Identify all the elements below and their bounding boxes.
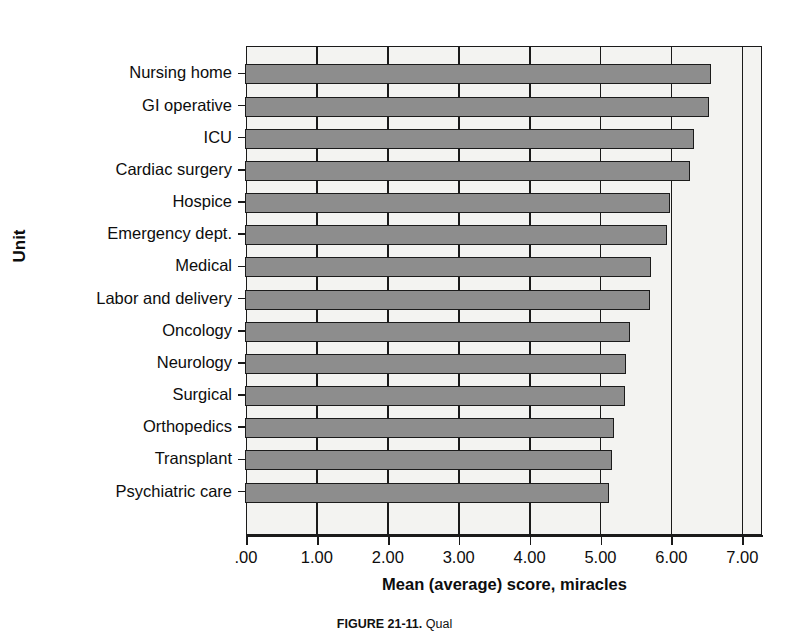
bar [245, 322, 629, 342]
bar [245, 450, 612, 470]
x-axis-tick [459, 536, 461, 545]
bar [245, 386, 624, 406]
category-label: Cardiac surgery [12, 161, 232, 178]
category-label: Labor and delivery [12, 290, 232, 307]
x-axis-tick-label: 6.00 [636, 548, 706, 567]
x-axis-tick [671, 536, 673, 545]
x-axis-line [246, 535, 763, 537]
category-label: Surgical [12, 386, 232, 403]
bar [245, 225, 666, 245]
category-label: Transplant [12, 450, 232, 467]
caption-label: FIGURE 21-11. [337, 617, 422, 631]
category-label: Orthopedics [12, 418, 232, 435]
x-axis-tick-label: .00 [211, 548, 281, 567]
category-label: Medical [12, 257, 232, 274]
bar [245, 129, 693, 149]
bar [245, 257, 651, 277]
category-label-column: Nursing homeGI operativeICUCardiac surge… [10, 46, 236, 535]
x-axis-tick-label: 4.00 [495, 548, 565, 567]
category-label: Oncology [12, 322, 232, 339]
x-axis-tick [601, 536, 603, 545]
x-axis-title: Mean (average) score, miracles [246, 575, 763, 594]
x-axis-tick-label: 2.00 [353, 548, 423, 567]
category-label: ICU [12, 129, 232, 146]
bar [245, 483, 608, 503]
category-label: Psychiatric care [12, 483, 232, 500]
category-label: Nursing home [12, 64, 232, 81]
figure-caption: FIGURE 21-11. Qual [0, 617, 789, 631]
x-axis-tick [246, 536, 248, 545]
bar [245, 418, 614, 438]
bar [245, 290, 649, 310]
bar [245, 64, 711, 84]
x-axis-tick [388, 536, 390, 545]
category-label: Neurology [12, 354, 232, 371]
plot-area [246, 46, 762, 535]
gridline-6 [671, 47, 673, 534]
x-axis-tick-label: 7.00 [707, 548, 777, 567]
caption-text: Qual [422, 617, 452, 631]
bar [245, 354, 626, 374]
x-axis-tick [530, 536, 532, 545]
category-label: Hospice [12, 193, 232, 210]
category-label: Emergency dept. [12, 225, 232, 242]
bar [245, 161, 690, 181]
bar [245, 97, 709, 117]
figure-container: Unit Nursing homeGI operativeICUCardiac … [0, 0, 789, 633]
x-axis-tick [742, 536, 744, 545]
x-axis-tick [317, 536, 319, 545]
x-axis-tick-label: 3.00 [424, 548, 494, 567]
x-axis-tick-label: 1.00 [282, 548, 352, 567]
x-axis-tick-label: 5.00 [566, 548, 636, 567]
bar [245, 193, 670, 213]
category-label: GI operative [12, 97, 232, 114]
gridline-7 [742, 47, 744, 534]
